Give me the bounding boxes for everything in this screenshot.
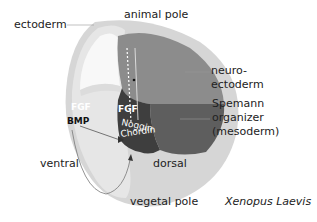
embryo-illustration: FGF FGF BMP Noggin Chordin xyxy=(0,0,317,222)
neuroectoderm-label-line2: ectoderm xyxy=(211,78,264,91)
vegetal-pole-label: vegetal pole xyxy=(130,195,198,208)
spemann-label-line1: Spemann xyxy=(212,97,264,110)
neuroectoderm-label-line1: neuro- xyxy=(211,64,247,77)
xenopus-embryo-diagram: FGF FGF BMP Noggin Chordin ectoderm anim… xyxy=(0,0,317,222)
spemann-label-line3: (mesoderm) xyxy=(212,125,279,138)
fgf-ventral-label: FGF xyxy=(71,102,91,112)
dorsal-label: dorsal xyxy=(153,157,187,170)
bmp-label: BMP xyxy=(67,116,90,126)
animal-pole-label: animal pole xyxy=(124,8,188,21)
fgf-dorsal-label: FGF xyxy=(118,104,138,114)
neuroectoderm-region xyxy=(118,33,225,104)
ventral-label: ventral xyxy=(40,157,79,170)
spemann-label-line2: organizer xyxy=(212,111,264,124)
species-label: Xenopus Laevis xyxy=(225,195,311,208)
ectoderm-label: ectoderm xyxy=(14,18,67,31)
